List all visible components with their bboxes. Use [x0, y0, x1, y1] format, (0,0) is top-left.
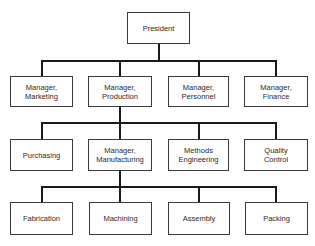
node-label-line2: Marketing	[25, 92, 58, 101]
node-label-line1: Manager,	[183, 83, 214, 92]
connector-marketing	[41, 60, 43, 76]
node-label-line2: Engineering	[178, 155, 218, 164]
node-label-line1: Purchasing	[23, 151, 61, 160]
node-label: Fabrication	[23, 214, 60, 223]
node-manager-personnel: Manager, Personnel	[168, 76, 229, 107]
node-manager-marketing: Manager, Marketing	[10, 76, 73, 107]
connector-purchasing	[41, 122, 43, 139]
node-label-line1: Manager,	[26, 83, 57, 92]
node-label-line2: Personnel	[182, 92, 216, 101]
connector-assembly	[198, 186, 200, 202]
node-president: President	[127, 12, 190, 44]
node-manager-production: Manager, Production	[88, 76, 152, 107]
connector-fabrication	[41, 186, 43, 202]
connector-president-down	[158, 44, 160, 61]
connector-level3-horizontal	[41, 122, 277, 124]
node-purchasing: Purchasing	[10, 139, 73, 171]
node-label-line1: Methods	[184, 146, 213, 155]
node-label: Machining	[103, 214, 137, 223]
node-label-line1: Quality	[264, 146, 287, 155]
node-label-line2: Production	[102, 92, 138, 101]
connector-machining	[119, 186, 121, 202]
node-label-line2: Control	[264, 155, 288, 164]
node-label: President	[143, 24, 175, 33]
node-label: Assembly	[183, 214, 216, 223]
connector-production	[119, 60, 121, 76]
connector-methods	[198, 122, 200, 139]
node-fabrication: Fabrication	[10, 202, 73, 235]
node-quality-control: Quality Control	[244, 139, 308, 171]
node-manager-finance: Manager, Finance	[244, 76, 308, 107]
connector-level2-horizontal	[41, 60, 277, 62]
node-methods-engineering: Methods Engineering	[168, 139, 229, 171]
node-label-line2: Finance	[263, 92, 290, 101]
connector-manufacturing	[119, 122, 121, 139]
connector-level4-horizontal	[41, 186, 277, 188]
node-machining: Machining	[89, 202, 152, 235]
connector-packing	[275, 186, 277, 202]
node-label-line2: Manufacturing	[96, 155, 144, 164]
node-manager-manufacturing: Manager, Manufacturing	[88, 139, 152, 171]
node-label: Packing	[263, 214, 290, 223]
connector-quality	[275, 122, 277, 139]
node-label-line1: Manager,	[104, 146, 135, 155]
node-label-line1: Manager,	[104, 83, 135, 92]
node-packing: Packing	[245, 202, 308, 235]
node-assembly: Assembly	[168, 202, 230, 235]
node-label-line1: Manager,	[260, 83, 291, 92]
connector-personnel	[198, 60, 200, 76]
connector-finance	[275, 60, 277, 76]
